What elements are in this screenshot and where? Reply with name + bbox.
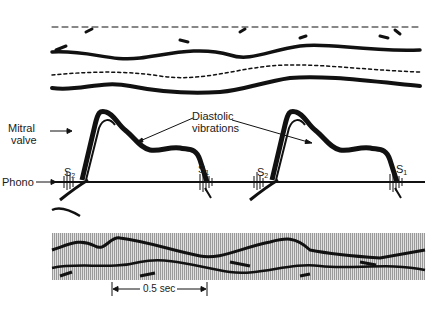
mitral-label-line1: Mitral (8, 122, 37, 134)
s2-subscript: 2 (264, 172, 268, 179)
mitral-label-line2: valve (8, 134, 37, 146)
phono-label: Phono (2, 176, 34, 188)
diastolic-vibrations-label: Diastolic vibrations (192, 110, 239, 134)
s1-label-beat1: S1 (198, 163, 209, 179)
annotation-arrows (36, 118, 312, 185)
s2-label-beat1: S2 (64, 166, 75, 182)
wall-echo-band (52, 27, 420, 93)
diastolic-label-line2: vibrations (192, 122, 239, 134)
s1-subscript: 1 (205, 169, 209, 176)
diastolic-label-line1: Diastolic (192, 110, 239, 122)
echocardiogram-tracing (0, 0, 437, 314)
time-scale-label: 0.5 sec (143, 283, 175, 295)
s2-subscript: 2 (71, 172, 75, 179)
mitral-valve-label: Mitral valve (8, 122, 37, 146)
s1-subscript: 1 (403, 169, 407, 176)
s2-label-beat2: S2 (257, 166, 268, 182)
s1-label-beat2: S1 (396, 163, 407, 179)
